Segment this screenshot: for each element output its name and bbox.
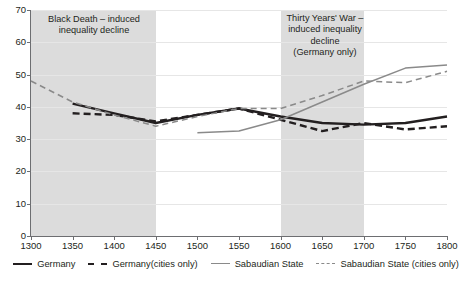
x-tick-label-1650: 1650 bbox=[312, 241, 333, 251]
y-tick-label-70: 70 bbox=[0, 5, 26, 15]
x-tick-label-1300: 1300 bbox=[20, 241, 41, 251]
legend-label-1: Germany(cities only) bbox=[112, 259, 197, 269]
annotation-black-death: Black Death – induced inequality decline bbox=[36, 14, 152, 37]
y-tick-label-20: 20 bbox=[0, 167, 26, 177]
legend-item-0[interactable]: Germany bbox=[13, 259, 75, 269]
annotation-thirty-years-war-line2: induced inequality bbox=[272, 24, 378, 35]
x-tick-mark-1700 bbox=[364, 236, 365, 240]
y-tick-mark-10 bbox=[27, 204, 31, 205]
y-tick-mark-60 bbox=[27, 42, 31, 43]
chart-legend: GermanyGermany(cities only)Sabaudian Sta… bbox=[0, 259, 472, 269]
plot-area bbox=[31, 10, 447, 236]
legend-label-2: Sabaudian State bbox=[235, 259, 304, 269]
chart-container: 010203040506070 130013501400145015001550… bbox=[0, 0, 472, 284]
legend-item-3[interactable]: Sabaudian State (cities only) bbox=[316, 259, 458, 269]
x-tick-label-1350: 1350 bbox=[62, 241, 83, 251]
x-tick-mark-1350 bbox=[73, 236, 74, 240]
x-tick-mark-1800 bbox=[447, 236, 448, 240]
x-tick-mark-1600 bbox=[281, 236, 282, 240]
legend-label-0: Germany bbox=[37, 259, 75, 269]
x-tick-label-1550: 1550 bbox=[228, 241, 249, 251]
x-tick-label-1600: 1600 bbox=[270, 241, 291, 251]
annotation-black-death-line2: inequality decline bbox=[36, 25, 152, 36]
annotation-black-death-line1: Black Death – induced bbox=[36, 14, 152, 25]
legend-label-3: Sabaudian State (cities only) bbox=[340, 259, 458, 269]
x-tick-mark-1400 bbox=[114, 236, 115, 240]
y-tick-label-50: 50 bbox=[0, 70, 26, 80]
data-series-layer bbox=[31, 10, 447, 236]
annotation-thirty-years-war-line3: decline bbox=[272, 36, 378, 47]
annotation-thirty-years-war: Thirty Years' War – induced inequality d… bbox=[272, 13, 378, 59]
legend-item-2[interactable]: Sabaudian State bbox=[211, 259, 304, 269]
y-tick-label-10: 10 bbox=[0, 199, 26, 209]
x-tick-label-1450: 1450 bbox=[145, 241, 166, 251]
y-tick-label-40: 40 bbox=[0, 102, 26, 112]
x-tick-mark-1450 bbox=[156, 236, 157, 240]
x-tick-label-1700: 1700 bbox=[353, 241, 374, 251]
y-tick-mark-30 bbox=[27, 139, 31, 140]
y-tick-label-60: 60 bbox=[0, 38, 26, 48]
x-tick-label-1400: 1400 bbox=[104, 241, 125, 251]
y-tick-mark-20 bbox=[27, 171, 31, 172]
y-tick-mark-70 bbox=[27, 10, 31, 11]
x-tick-mark-1650 bbox=[322, 236, 323, 240]
annotation-thirty-years-war-line1: Thirty Years' War – bbox=[272, 13, 378, 24]
x-tick-mark-1550 bbox=[239, 236, 240, 240]
x-tick-label-1800: 1800 bbox=[436, 241, 457, 251]
legend-item-1[interactable]: Germany(cities only) bbox=[88, 259, 197, 269]
y-tick-mark-50 bbox=[27, 75, 31, 76]
y-tick-mark-40 bbox=[27, 107, 31, 108]
x-tick-label-1750: 1750 bbox=[395, 241, 416, 251]
series-line-3 bbox=[31, 71, 447, 126]
y-tick-label-30: 30 bbox=[0, 134, 26, 144]
x-tick-mark-1300 bbox=[31, 236, 32, 240]
x-tick-mark-1750 bbox=[405, 236, 406, 240]
x-tick-mark-1500 bbox=[197, 236, 198, 240]
x-tick-label-1500: 1500 bbox=[187, 241, 208, 251]
annotation-thirty-years-war-line4: (Germany only) bbox=[272, 47, 378, 58]
